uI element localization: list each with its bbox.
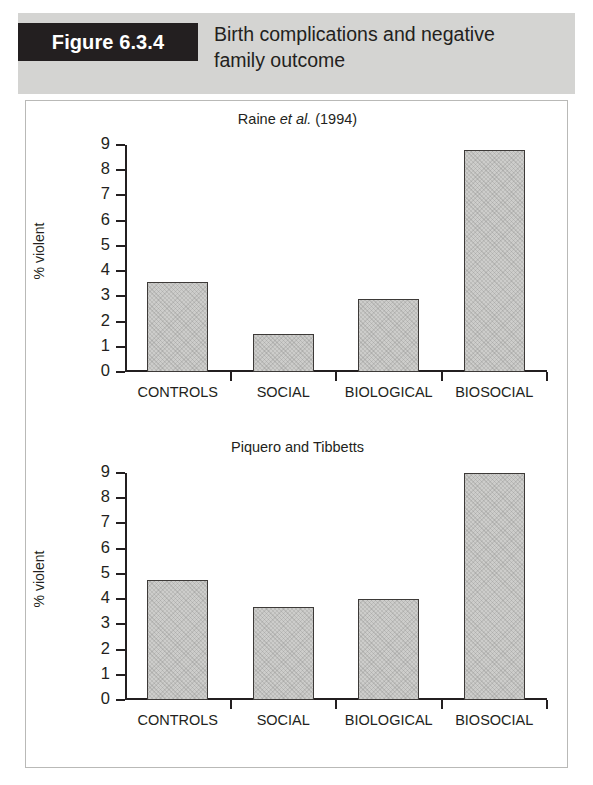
chart-title: Raine et al. (1994) <box>26 111 569 127</box>
y-tick-label: 0 <box>101 688 110 708</box>
y-tick-mark: 3 <box>116 623 125 625</box>
y-tick-label: 5 <box>101 234 110 254</box>
bar <box>464 473 525 700</box>
y-tick-mark: 7 <box>116 194 125 196</box>
plot-area: 0123456789CONTROLSSOCIALBIOLOGICALBIOSOC… <box>125 473 547 700</box>
figure-caption-line-2: family outcome <box>214 47 564 73</box>
y-tick-mark: 7 <box>116 522 125 524</box>
x-tick-label: BIOSOCIAL <box>442 712 548 728</box>
y-tick-mark: 5 <box>116 573 125 575</box>
x-tick-mark <box>230 372 232 381</box>
y-tick-label: 7 <box>101 511 110 531</box>
y-tick-label: 4 <box>101 587 110 607</box>
x-tick-label: CONTROLS <box>125 712 231 728</box>
y-tick-label: 1 <box>101 663 110 683</box>
y-tick-mark: 9 <box>116 144 125 146</box>
y-tick-label: 4 <box>101 259 110 279</box>
chart-title-prefix: Raine <box>238 111 280 127</box>
y-tick-mark: 8 <box>116 497 125 499</box>
y-tick-mark: 2 <box>116 321 125 323</box>
chart-piquero: Piquero and Tibbetts % violent 012345678… <box>26 439 569 759</box>
y-tick-label: 6 <box>101 537 110 557</box>
figure-root: Figure 6.3.4 Birth complications and neg… <box>0 0 593 785</box>
x-tick-mark <box>230 700 232 709</box>
y-tick-mark: 0 <box>116 371 125 373</box>
x-tick-label: BIOLOGICAL <box>336 384 442 400</box>
bar <box>253 607 314 700</box>
y-tick-mark: 5 <box>116 245 125 247</box>
x-tick-label: CONTROLS <box>125 384 231 400</box>
y-tick-label: 2 <box>101 310 110 330</box>
y-tick-mark: 1 <box>116 346 125 348</box>
figure-caption-line-1: Birth complications and negative <box>214 21 564 47</box>
figure-caption: Birth complications and negative family … <box>214 21 564 73</box>
y-tick-label: 1 <box>101 335 110 355</box>
bar <box>358 599 419 700</box>
bar <box>464 150 525 372</box>
y-tick-label: 0 <box>101 360 110 380</box>
y-axis-line <box>125 473 127 700</box>
y-tick-label: 7 <box>101 183 110 203</box>
x-tick-mark <box>335 700 337 709</box>
y-tick-label: 8 <box>101 486 110 506</box>
y-tick-mark: 3 <box>116 295 125 297</box>
x-tick-label: BIOSOCIAL <box>442 384 548 400</box>
bar <box>147 282 208 372</box>
plot-area: 0123456789CONTROLSSOCIALBIOLOGICALBIOSOC… <box>125 145 547 372</box>
y-axis-label: % violent <box>31 504 47 654</box>
y-tick-label: 3 <box>101 284 110 304</box>
y-tick-mark: 6 <box>116 220 125 222</box>
chart-title-text: Piquero and Tibbetts <box>231 439 364 455</box>
bar <box>358 299 419 372</box>
x-tick-mark <box>441 372 443 381</box>
y-axis-label: % violent <box>31 176 47 326</box>
y-tick-label: 2 <box>101 638 110 658</box>
figure-number-label: Figure 6.3.4 <box>52 31 164 54</box>
chart-title: Piquero and Tibbetts <box>26 439 569 455</box>
x-tick-label: BIOLOGICAL <box>336 712 442 728</box>
x-tick-mark <box>546 700 548 709</box>
y-tick-mark: 8 <box>116 169 125 171</box>
y-tick-label: 5 <box>101 562 110 582</box>
y-tick-mark: 4 <box>116 598 125 600</box>
y-tick-mark: 1 <box>116 674 125 676</box>
x-tick-mark <box>441 700 443 709</box>
y-tick-mark: 9 <box>116 472 125 474</box>
x-tick-label: SOCIAL <box>231 712 337 728</box>
y-tick-label: 3 <box>101 612 110 632</box>
bar <box>147 580 208 700</box>
chart-raine: Raine et al. (1994) % violent 0123456789… <box>26 111 569 429</box>
x-tick-mark <box>546 372 548 381</box>
y-tick-label: 8 <box>101 158 110 178</box>
y-tick-mark: 6 <box>116 548 125 550</box>
y-tick-mark: 4 <box>116 270 125 272</box>
y-tick-label: 9 <box>101 461 110 481</box>
figure-header-band: Figure 6.3.4 Birth complications and neg… <box>18 13 575 94</box>
y-tick-mark: 2 <box>116 649 125 651</box>
x-tick-label: SOCIAL <box>231 384 337 400</box>
x-tick-mark <box>335 372 337 381</box>
y-axis-line <box>125 145 127 372</box>
bar <box>253 334 314 372</box>
chart-title-italic: et al. <box>280 111 311 127</box>
plot-frame: Raine et al. (1994) % violent 0123456789… <box>25 100 568 768</box>
figure-number-tag: Figure 6.3.4 <box>18 23 198 61</box>
chart-title-suffix: (1994) <box>311 111 357 127</box>
y-tick-mark: 0 <box>116 699 125 701</box>
y-tick-label: 9 <box>101 133 110 153</box>
y-tick-label: 6 <box>101 209 110 229</box>
